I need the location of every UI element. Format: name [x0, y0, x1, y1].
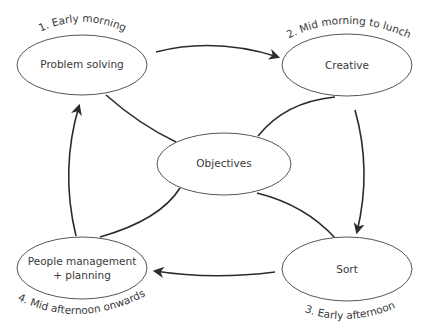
node-sort: Sort [282, 237, 412, 301]
node-label-line2: + planning [53, 269, 111, 281]
node-label: Objectives [196, 157, 251, 169]
time-label-3: 3. Early afternoon [304, 298, 397, 321]
node-label-line1: People management [28, 255, 137, 267]
cycle-diagram: Problem solving Creative Objectives Peop… [0, 0, 430, 333]
node-label: Problem solving [40, 58, 124, 70]
node-label: Sort [336, 263, 358, 275]
node-objectives: Objectives [157, 133, 291, 195]
node-problem-solving: Problem solving [17, 35, 147, 95]
time-label-1: 1. Early morning [36, 12, 128, 34]
node-label: Creative [325, 59, 369, 71]
node-people-management: People management + planning [17, 237, 147, 299]
node-creative: Creative [282, 34, 412, 96]
